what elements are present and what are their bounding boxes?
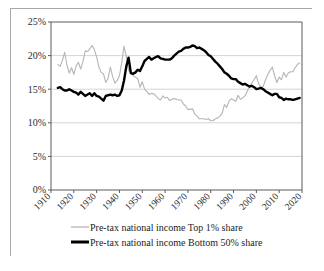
legend-label-bottom-50-percent: Pre-tax national income Bottom 50% share	[90, 237, 263, 248]
income-share-line-chart: 0%5%10%15%20%25% 19101920193019401950196…	[11, 9, 313, 257]
y-tick-label: 25%	[28, 16, 46, 27]
y-tick-label: 20%	[28, 50, 46, 61]
chart-figure: 0%5%10%15%20%25% 19101920193019401950196…	[10, 8, 312, 256]
y-tick-label: 5%	[33, 151, 46, 162]
legend-label-top-1-percent: Pre-tax national income Top 1% share	[90, 222, 243, 233]
legend-item-bottom-50-percent: Pre-tax national income Bottom 50% share	[71, 237, 263, 248]
y-tick-label: 15%	[28, 84, 46, 95]
y-tick-label: 10%	[28, 117, 46, 128]
legend-item-top-1-percent: Pre-tax national income Top 1% share	[71, 222, 243, 233]
chart-background	[11, 9, 313, 257]
